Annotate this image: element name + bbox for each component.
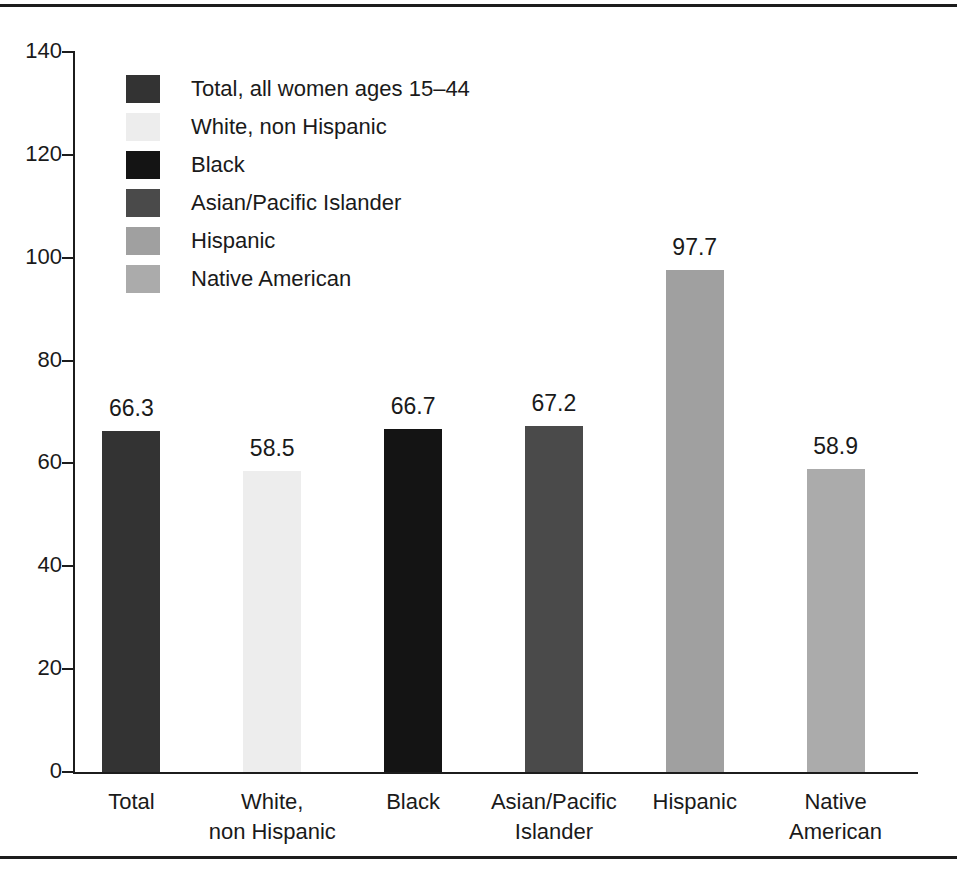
legend-item-label: White, non Hispanic [191, 116, 387, 138]
y-tick-label: 140 [6, 40, 62, 62]
y-tick-label-wrap: 40 [0, 554, 62, 576]
x-axis-label: NativeAmerican [746, 787, 926, 847]
y-tick-label: 60 [6, 451, 62, 473]
chart-legend: Total, all women ages 15–44White, non Hi… [126, 70, 546, 298]
y-tick-label-wrap: 100 [0, 246, 62, 268]
y-tick-label-wrap: 20 [0, 657, 62, 679]
legend-color-swatch [126, 189, 160, 217]
legend-color-swatch [126, 75, 160, 103]
legend-item[interactable]: Asian/Pacific Islander [126, 184, 546, 222]
bar-white-non-hispanic[interactable] [243, 471, 301, 772]
x-axis-label-line: non Hispanic [182, 817, 362, 847]
y-tick-label-wrap: 140 [0, 40, 62, 62]
bar-value-label: 58.9 [776, 435, 896, 458]
y-tick-label-wrap: 80 [0, 349, 62, 371]
legend-item-label: Native American [191, 268, 351, 290]
x-axis-label-line: Islander [464, 817, 644, 847]
y-tick-label: 80 [6, 349, 62, 371]
y-tick-label: 0 [6, 760, 62, 782]
bar-value-label: 66.3 [71, 397, 191, 420]
y-tick-label-wrap: 120 [0, 143, 62, 165]
y-tick-label: 40 [6, 554, 62, 576]
bar-chart-figure: 020406080100120140 66.358.566.767.297.75… [0, 0, 957, 872]
bar-value-label: 67.2 [494, 392, 614, 415]
y-tick-label: 100 [6, 246, 62, 268]
bar-black[interactable] [384, 429, 442, 772]
legend-item[interactable]: Black [126, 146, 546, 184]
legend-item[interactable]: Hispanic [126, 222, 546, 260]
legend-color-swatch [126, 265, 160, 293]
legend-item[interactable]: Total, all women ages 15–44 [126, 70, 546, 108]
x-axis-line [73, 772, 918, 774]
bar-value-label: 58.5 [212, 437, 332, 460]
bar-asian-pacific-islander[interactable] [525, 426, 583, 772]
y-tick-label: 120 [6, 143, 62, 165]
legend-item-label: Total, all women ages 15–44 [191, 78, 470, 100]
legend-color-swatch [126, 151, 160, 179]
legend-item-label: Asian/Pacific Islander [191, 192, 401, 214]
bar-value-label: 66.7 [353, 395, 473, 418]
bar-hispanic[interactable] [666, 270, 724, 772]
x-axis-label-line: American [746, 817, 926, 847]
legend-color-swatch [126, 227, 160, 255]
legend-color-swatch [126, 113, 160, 141]
legend-item[interactable]: White, non Hispanic [126, 108, 546, 146]
bar-total[interactable] [102, 431, 160, 772]
y-tick-label: 20 [6, 657, 62, 679]
y-tick-label-wrap: 0 [0, 760, 62, 782]
legend-item-label: Hispanic [191, 230, 275, 252]
bar-native-american[interactable] [807, 469, 865, 772]
y-tick-label-wrap: 60 [0, 451, 62, 473]
x-axis-label-line: Native [746, 787, 926, 817]
legend-item-label: Black [191, 154, 245, 176]
bar-value-label: 97.7 [635, 236, 755, 259]
legend-item[interactable]: Native American [126, 260, 546, 298]
